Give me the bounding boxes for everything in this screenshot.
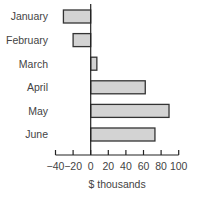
category-label: February: [6, 34, 49, 46]
category-label: May: [28, 105, 49, 117]
tick-label: 40: [120, 160, 132, 172]
tick-label: 100: [170, 160, 188, 172]
x-axis-label: $ thousands: [88, 178, 145, 190]
tick-label: 60: [138, 160, 150, 172]
bar-march: [91, 57, 97, 70]
category-labels: JanuaryFebruaryMarchAprilMayJune: [6, 10, 49, 140]
category-label: March: [19, 58, 48, 70]
tick-label: 0: [88, 160, 94, 172]
x-axis-ticks: −40−20020406080100: [47, 150, 188, 172]
bars-group: [63, 10, 169, 141]
category-label: April: [27, 81, 48, 93]
category-label: June: [25, 128, 48, 140]
tick-label: −20: [64, 160, 82, 172]
bar-june: [91, 128, 155, 141]
bar-february: [73, 34, 91, 47]
bar-may: [91, 104, 169, 117]
bar-chart: JanuaryFebruaryMarchAprilMayJune −40−200…: [0, 0, 200, 202]
bar-january: [63, 10, 90, 23]
bar-april: [91, 81, 146, 94]
tick-label: 20: [102, 160, 114, 172]
tick-label: 80: [155, 160, 167, 172]
category-label: January: [11, 10, 49, 22]
tick-label: −40: [47, 160, 65, 172]
